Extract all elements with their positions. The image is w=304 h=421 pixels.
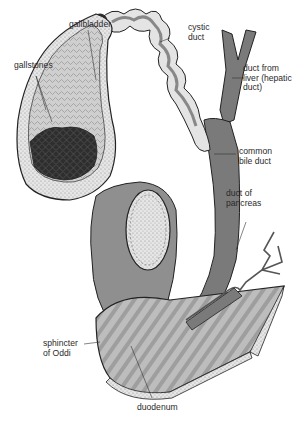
label-gallbladder: gallbladder <box>69 20 111 30</box>
anatomy-diagram: gallbladder gallstones cystic duct duct … <box>0 0 304 421</box>
label-pancreatic-duct: duct of pancreas <box>226 189 261 208</box>
gallbladder <box>17 14 116 200</box>
duodenum <box>91 182 284 399</box>
label-cystic-duct: cystic duct <box>188 23 209 42</box>
label-common-bile-duct: common bile duct <box>239 147 272 166</box>
label-gallstones: gallstones <box>14 61 53 71</box>
label-hepatic-duct: duct from liver (hepatic duct) <box>243 64 292 93</box>
label-duodenum: duodenum <box>137 403 178 413</box>
label-sphincter-of-oddi: sphincter of Oddi <box>43 339 78 358</box>
